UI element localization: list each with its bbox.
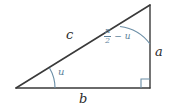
hypotenuse-label: c <box>66 28 73 41</box>
angle-label-complement: π 2 − u <box>104 27 131 45</box>
pi-over-two-fraction: π 2 <box>104 27 111 45</box>
triangle-diagram: c b a u π 2 − u <box>0 0 170 106</box>
angle-arc-lower-left <box>50 68 56 88</box>
fraction-numerator: π <box>104 27 111 35</box>
angle-label-u: u <box>58 67 64 77</box>
base-label: b <box>79 92 87 105</box>
vertical-side-label: a <box>155 45 163 58</box>
hypotenuse-line <box>16 5 150 88</box>
fraction-denominator: 2 <box>104 37 111 45</box>
right-angle-marker <box>141 79 150 88</box>
angle-variable-u: u <box>125 32 131 41</box>
minus-operator: − <box>113 32 123 41</box>
